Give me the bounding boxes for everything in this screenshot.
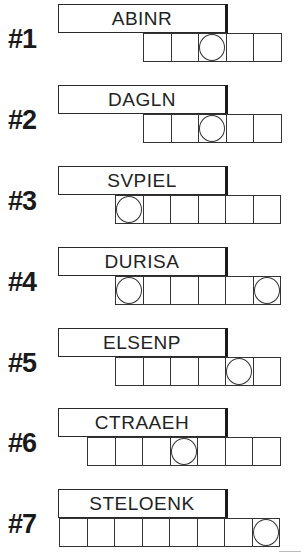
scrambled-word-box: STELOENK (58, 489, 228, 518)
answer-cell[interactable] (226, 33, 255, 62)
puzzle-number: #6 (8, 430, 36, 457)
scrambled-word-box: ELSENP (58, 328, 228, 357)
scrambled-letters: CTRAAEH (59, 412, 225, 434)
answer-cell[interactable] (198, 33, 227, 62)
scrambled-letters: SVPIEL (59, 170, 225, 192)
answer-cell[interactable] (252, 437, 281, 466)
answer-cell[interactable] (198, 195, 227, 224)
page-mark (279, 551, 301, 555)
answer-cell[interactable] (143, 276, 172, 305)
answer-grid (115, 276, 281, 305)
answer-cell[interactable] (170, 357, 199, 386)
answer-cell[interactable] (115, 357, 144, 386)
answer-cell[interactable] (224, 518, 253, 547)
puzzle-2: #2DAGLN (0, 85, 305, 147)
circle-marker-icon (199, 115, 225, 142)
answer-cell[interactable] (226, 114, 255, 143)
answer-cell[interactable] (225, 276, 254, 305)
puzzle-5: #5ELSENP (0, 328, 305, 390)
answer-cell[interactable] (170, 437, 199, 466)
answer-cell[interactable] (169, 518, 198, 547)
scrambled-word-box: CTRAAEH (58, 408, 228, 437)
puzzle-number: #2 (8, 107, 36, 134)
scrambled-word-box: DAGLN (58, 85, 228, 114)
scrambled-letters: DURISA (59, 251, 225, 273)
answer-cell[interactable] (143, 195, 172, 224)
puzzle-7: #7STELOENK (0, 489, 305, 551)
answer-grid (87, 437, 281, 466)
scrambled-word-box: DURISA (58, 247, 228, 276)
answer-cell[interactable] (253, 195, 282, 224)
answer-cell[interactable] (87, 518, 116, 547)
answer-cell[interactable] (142, 437, 171, 466)
answer-cell[interactable] (225, 437, 254, 466)
puzzle-number: #7 (8, 511, 36, 538)
puzzle-number: #5 (8, 350, 36, 377)
answer-cell[interactable] (197, 518, 226, 547)
answer-cell[interactable] (198, 357, 227, 386)
circle-marker-icon (116, 277, 142, 304)
answer-cell[interactable] (171, 114, 200, 143)
puzzle-number: #3 (8, 188, 36, 215)
answer-cell[interactable] (59, 518, 88, 547)
answer-cell[interactable] (143, 33, 172, 62)
scrambled-letters: ABINR (59, 8, 225, 30)
answer-cell[interactable] (225, 195, 254, 224)
answer-cell[interactable] (197, 437, 226, 466)
circle-marker-icon (226, 358, 252, 385)
puzzle-3: #3SVPIEL (0, 166, 305, 228)
answer-grid (143, 33, 282, 62)
scrambled-word-box: ABINR (58, 4, 228, 33)
answer-cell[interactable] (198, 276, 227, 305)
puzzle-number: #4 (8, 269, 36, 296)
circle-marker-icon (116, 196, 142, 223)
answer-cell[interactable] (115, 195, 144, 224)
puzzle-number: #1 (8, 26, 36, 53)
answer-grid (143, 114, 282, 143)
answer-cell[interactable] (225, 357, 254, 386)
answer-cell[interactable] (170, 276, 199, 305)
answer-cell[interactable] (143, 357, 172, 386)
answer-cell[interactable] (115, 437, 144, 466)
answer-grid (59, 518, 280, 547)
scrambled-letters: ELSENP (59, 332, 225, 354)
answer-cell[interactable] (170, 195, 199, 224)
answer-cell[interactable] (253, 33, 282, 62)
answer-cell[interactable] (171, 33, 200, 62)
circle-marker-icon (199, 34, 225, 61)
puzzle-4: #4DURISA (0, 247, 305, 309)
answer-cell[interactable] (114, 518, 143, 547)
circle-marker-icon (254, 277, 280, 304)
answer-cell[interactable] (252, 518, 281, 547)
answer-grid (115, 357, 281, 386)
scrambled-letters: DAGLN (59, 89, 225, 111)
answer-cell[interactable] (115, 276, 144, 305)
answer-cell[interactable] (253, 357, 282, 386)
answer-cell[interactable] (143, 114, 172, 143)
scrambled-word-box: SVPIEL (58, 166, 228, 195)
circle-marker-icon (253, 519, 279, 546)
answer-cell[interactable] (87, 437, 116, 466)
circle-marker-icon (171, 438, 197, 465)
puzzle-1: #1ABINR (0, 4, 305, 66)
answer-cell[interactable] (253, 276, 282, 305)
answer-cell[interactable] (253, 114, 282, 143)
answer-grid (115, 195, 281, 224)
answer-cell[interactable] (142, 518, 171, 547)
puzzle-6: #6CTRAAEH (0, 408, 305, 470)
answer-cell[interactable] (198, 114, 227, 143)
scrambled-letters: STELOENK (59, 493, 225, 515)
